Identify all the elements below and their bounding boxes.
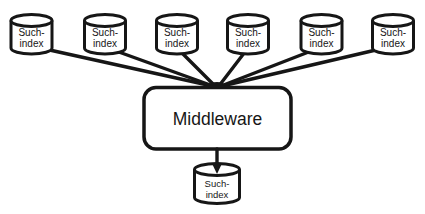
database-icon-1: Such- index: [11, 15, 52, 55]
database-label-line2: index: [236, 38, 260, 49]
database-top: [85, 15, 126, 27]
database-label-line1: Such-: [235, 27, 261, 38]
database-label-line2: index: [20, 38, 44, 49]
database-icon-4: Such- index: [228, 15, 269, 55]
arrowheads-convergence-blob: [209, 82, 225, 89]
database-label-line1: Such-: [18, 27, 44, 38]
database-label-line1: Such-: [205, 178, 230, 189]
database-icon-5: Such- index: [301, 15, 342, 55]
middleware-architecture-diagram: Such- index Such- index Such- index Such…: [0, 0, 425, 214]
database-icon-2: Such- index: [85, 15, 126, 55]
middleware-node: Middleware: [144, 88, 291, 150]
database-label-line2: index: [206, 189, 229, 200]
database-label-line1: Such-: [164, 27, 190, 38]
database-label-line1: Such-: [380, 27, 406, 38]
database-top: [373, 15, 414, 27]
database-top: [157, 15, 198, 27]
database-label-line2: index: [93, 38, 117, 49]
database-icon-3: Such- index: [157, 15, 198, 54]
database-top: [228, 15, 269, 27]
database-top: [11, 15, 52, 27]
database-icon-6: Such- index: [372, 15, 413, 55]
database-top: [301, 15, 342, 27]
diagram-canvas: Such- index Such- index Such- index Such…: [0, 0, 425, 214]
middleware-label: Middleware: [173, 109, 262, 129]
database-label-line2: index: [381, 38, 405, 49]
database-label-line1: Such-: [92, 27, 118, 38]
database-label-line2: index: [310, 38, 334, 49]
database-label-line2: index: [165, 38, 189, 49]
database-label-line1: Such-: [308, 27, 334, 38]
